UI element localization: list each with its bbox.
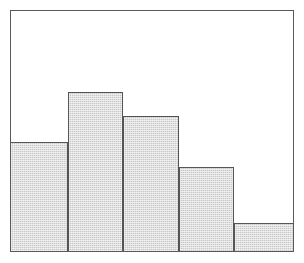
histogram-bar-4 [179,167,234,251]
histogram-bar-2 [68,92,123,251]
histogram-bar-3 [123,116,179,251]
histogram-bar-5 [234,223,293,251]
plot-frame [10,10,294,252]
histogram-bar-1 [11,142,68,251]
plot-area [11,11,293,251]
histogram-figure [0,0,304,263]
